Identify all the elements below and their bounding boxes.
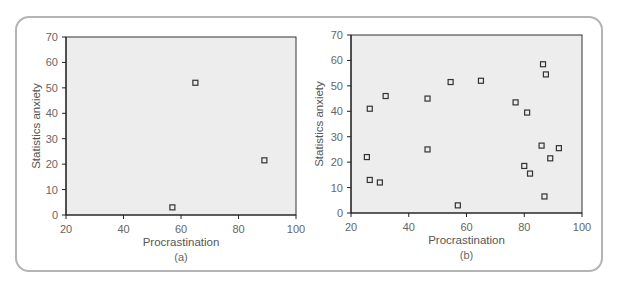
x-tick-label: 40 [403, 221, 415, 233]
y-tick-label: 50 [331, 80, 343, 92]
x-tick-label: 60 [460, 221, 472, 233]
y-tick-label: 20 [331, 156, 343, 168]
x-tick-label: 20 [345, 221, 357, 233]
plot-area [351, 35, 582, 213]
y-tick-label: 60 [331, 54, 343, 66]
panel-caption: (b) [460, 249, 473, 261]
y-axis-title: Statistics anxiety [313, 81, 325, 167]
y-tick-label: 70 [331, 29, 343, 41]
scatter-plot-b: 01020304050607020406080100Procrastinatio… [0, 0, 619, 292]
y-tick-label: 30 [331, 131, 343, 143]
y-tick-label: 40 [331, 105, 343, 117]
y-tick-label: 10 [331, 182, 343, 194]
x-axis-title: Procrastination [428, 234, 505, 246]
x-tick-label: 100 [573, 221, 591, 233]
y-tick-label: 0 [337, 207, 343, 219]
x-tick-label: 80 [518, 221, 530, 233]
